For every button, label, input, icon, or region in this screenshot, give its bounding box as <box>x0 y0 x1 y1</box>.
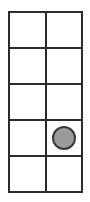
grid-container <box>8 11 83 193</box>
grid-cell-r3c1[interactable] <box>10 85 47 121</box>
grid-cell-r5c1[interactable] <box>10 157 47 193</box>
figure-canvas <box>0 0 90 202</box>
grid-cell-r4c1[interactable] <box>10 121 47 157</box>
grid-cell-r5c2[interactable] <box>47 157 84 193</box>
grid-cell-r1c2[interactable] <box>47 13 84 49</box>
grid-cell-r2c2[interactable] <box>47 49 84 85</box>
grid-cell-r1c1[interactable] <box>10 13 47 49</box>
grid-cell-r3c2[interactable] <box>47 85 84 121</box>
grid-cell-r4c2[interactable] <box>47 121 84 157</box>
circle-marker-icon <box>52 126 76 150</box>
grid-cell-r2c1[interactable] <box>10 49 47 85</box>
